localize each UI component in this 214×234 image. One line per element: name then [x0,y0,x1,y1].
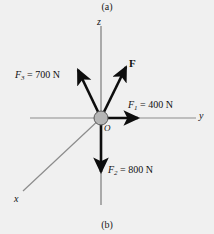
force-equals-F2: = [118,164,129,175]
resultant-label-F: F [129,58,136,69]
axis-label-z: z [97,17,101,27]
force-unit-F3: N [53,69,60,80]
axis-label-y: y [199,111,203,121]
vector-F3-arrow [78,70,101,118]
force-label-F2: F2 = 800 N [108,165,153,177]
force-unit-F1: N [166,99,173,110]
force-magnitude-F3: 700 [35,69,50,80]
force-label-F3: F3 = 700 N [15,70,60,82]
force-equals-F1: = [138,99,149,110]
force-equals-F3: = [25,69,36,80]
force-magnitude-F1: 400 [148,99,163,110]
force-vector-diagram: (a) z y x O F3 = 700 N F1 = 400 N F2 = 8… [0,0,214,234]
axis-x-line [23,118,101,191]
vector-F-arrow [101,67,126,118]
diagram-canvas [0,0,214,234]
force-label-F1: F1 = 400 N [128,100,173,112]
figure-caption-b: (b) [0,219,214,230]
axis-label-x: x [14,194,18,204]
force-unit-F2: N [146,164,153,175]
origin-label: O [104,124,111,133]
force-magnitude-F2: 800 [128,164,143,175]
